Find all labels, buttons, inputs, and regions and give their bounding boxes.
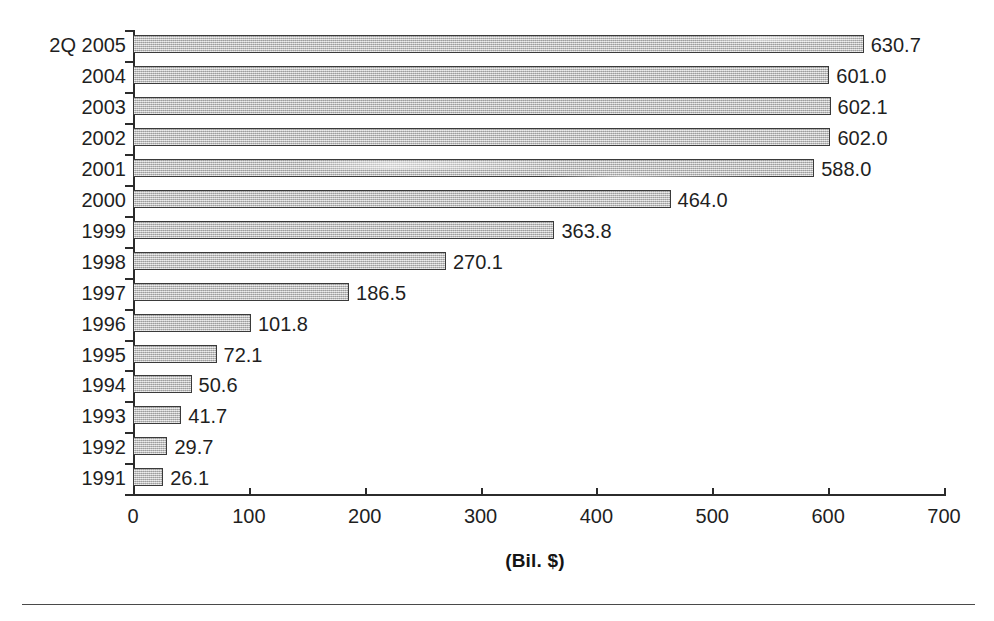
bar [133,314,251,332]
y-axis-tick [125,432,133,434]
x-axis-title: (Bil. $) [0,550,994,572]
bar-value-label: 363.8 [561,221,611,241]
bar [133,66,829,84]
scan-artifact [540,176,770,184]
category-label: 1992 [82,437,127,457]
bar-value-label: 464.0 [678,190,728,210]
x-axis-tick [828,488,830,496]
y-axis-tick [125,494,133,496]
y-axis-tick [125,278,133,280]
y-axis-tick [125,463,133,465]
x-axis-tick [133,488,135,496]
scan-artifact [136,147,306,156]
y-axis-tick [125,340,133,342]
x-axis-tick-label: 0 [93,505,173,527]
bar [133,159,814,177]
bar-value-label: 26.1 [170,468,209,488]
bar-value-label: 270.1 [453,252,503,272]
bar-value-label: 41.7 [188,406,227,426]
bar [133,221,554,239]
x-axis-tick [249,488,251,496]
bar-value-label: 186.5 [356,283,406,303]
y-axis-tick [125,123,133,125]
bar [133,283,349,301]
chart-figure: 630.7601.0602.1602.0588.0464.0363.8270.1… [0,0,994,621]
category-label: 1999 [82,221,127,241]
y-axis-tick [125,61,133,63]
bar-value-label: 601.0 [836,66,886,86]
bar-value-label: 72.1 [224,345,263,365]
bar [133,345,217,363]
bar-value-label: 588.0 [821,159,871,179]
category-label: 2004 [82,66,127,86]
bar-value-label: 602.0 [837,128,887,148]
bar [133,468,163,486]
category-label: 1993 [82,406,127,426]
y-axis-tick [125,30,133,32]
bar-value-label: 602.1 [838,97,888,117]
bar-value-label: 101.8 [258,314,308,334]
y-axis-tick [125,401,133,403]
x-axis-tick-label: 600 [788,505,868,527]
bar-value-label: 29.7 [174,437,213,457]
category-label: 1995 [82,345,127,365]
x-axis-tick [712,488,714,496]
x-axis-tick-label: 300 [441,505,521,527]
category-label: 2000 [82,190,127,210]
category-label: 2003 [82,97,127,117]
footer-divider [22,604,975,605]
category-label: 2Q 2005 [49,35,126,55]
bar [133,252,446,270]
category-label: 1997 [82,283,127,303]
bar [133,437,167,455]
x-axis-tick-label: 700 [904,505,984,527]
y-axis-tick [125,247,133,249]
category-label: 1994 [82,375,127,395]
category-label: 2002 [82,128,127,148]
y-axis-tick [125,309,133,311]
y-axis-tick [125,185,133,187]
x-axis-tick-label: 400 [556,505,636,527]
x-axis-tick-label: 100 [209,505,289,527]
y-axis-tick [125,154,133,156]
bar [133,35,864,53]
bar [133,375,192,393]
category-label: 1996 [82,314,127,334]
x-axis-line [133,494,945,496]
x-axis-tick-label: 200 [325,505,405,527]
category-label: 1998 [82,252,127,272]
bar [133,406,181,424]
x-axis-tick [944,488,946,496]
x-axis-tick [481,488,483,496]
bar [133,190,671,208]
bar [133,128,830,146]
bar-value-label: 50.6 [199,375,238,395]
y-axis-tick [125,92,133,94]
bar [133,97,831,115]
x-axis-tick [365,488,367,496]
y-axis-tick [125,370,133,372]
x-axis-tick-label: 500 [672,505,752,527]
y-axis-tick [125,216,133,218]
x-axis-tick [596,488,598,496]
bar-value-label: 630.7 [871,35,921,55]
category-label: 1991 [82,468,127,488]
category-label: 2001 [82,159,127,179]
x-axis-title-text: (Bil. $) [505,550,565,572]
